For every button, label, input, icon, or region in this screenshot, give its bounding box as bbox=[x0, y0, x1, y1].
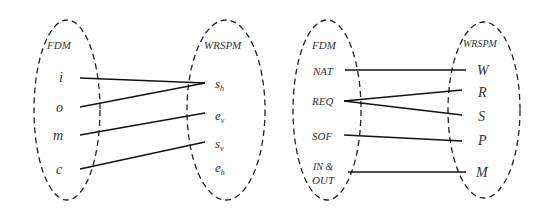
item-s: S bbox=[478, 109, 485, 124]
mapping-line-c-sv bbox=[80, 142, 205, 169]
mapping-line-i-sh bbox=[80, 78, 205, 83]
set-title-wrspm-2: WRSPM bbox=[463, 38, 498, 49]
mapping-line-req-r bbox=[344, 90, 462, 101]
set-title-fdm-2: FDM bbox=[311, 39, 337, 51]
item-m: m bbox=[53, 128, 63, 143]
item-s-h: sh bbox=[215, 76, 224, 93]
item-s-v: sv bbox=[215, 136, 224, 153]
mapping-line-sof-p bbox=[344, 135, 462, 141]
item-w: W bbox=[477, 63, 490, 78]
mapping-line-req-s bbox=[344, 101, 462, 115]
item-req: REQ bbox=[311, 95, 333, 107]
item-e-h: eh bbox=[215, 160, 225, 177]
item-e-v: ev bbox=[215, 108, 225, 125]
mapping-diagrams: FDM i o m c WRSPM sh ev sv eh FDM NAT RE… bbox=[0, 0, 533, 221]
item-i: i bbox=[59, 70, 63, 85]
set-title-fdm-1: FDM bbox=[46, 39, 72, 51]
item-out: OUT bbox=[312, 174, 335, 186]
item-in: IN & bbox=[312, 161, 334, 172]
item-r: R bbox=[477, 85, 487, 100]
item-c: c bbox=[56, 162, 63, 177]
item-o: o bbox=[56, 100, 63, 115]
item-p: P bbox=[477, 133, 487, 148]
item-sof: SOF bbox=[312, 130, 332, 142]
item-nat: NAT bbox=[312, 65, 334, 77]
set-title-wrspm-1: WRSPM bbox=[204, 39, 242, 51]
mapping-line-m-ev bbox=[80, 113, 205, 135]
item-m-cap: M bbox=[475, 165, 489, 180]
